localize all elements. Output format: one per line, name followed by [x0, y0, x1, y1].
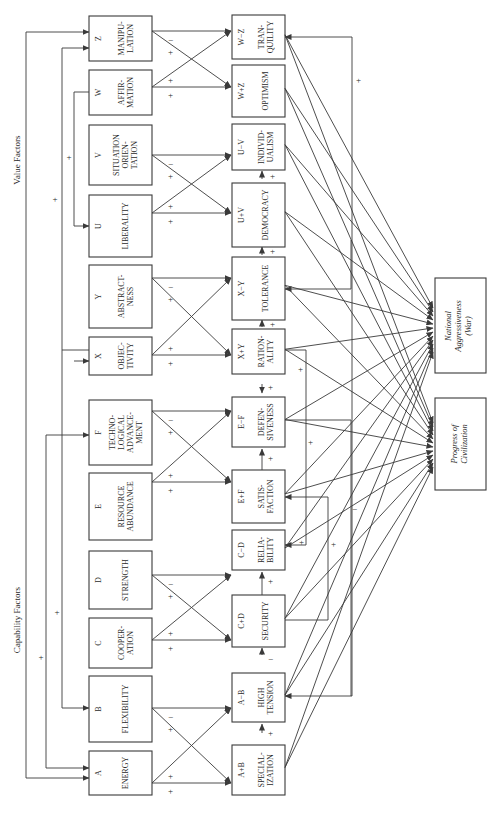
output-label-line: QUILITY: [266, 21, 275, 54]
influence-line: [285, 459, 433, 618]
output-factor-6: E−FDEFEN-SIVENESS: [232, 397, 285, 447]
input-factor-f: FTECHNO-LOGICALADVANCE-MENT: [89, 400, 152, 465]
output-label-line: UALISM: [266, 132, 275, 163]
link-sign: −: [268, 654, 273, 664]
influence-line: [285, 328, 433, 349]
output-formula: C−D: [237, 542, 246, 558]
target-progress-line: Civilization: [459, 424, 469, 464]
output-label-line: INDIVID-: [257, 130, 266, 164]
output-factor-11: A+BSPECIAL-IZATION: [232, 745, 285, 795]
influence-line: [285, 212, 433, 435]
svg-text:+: +: [168, 643, 173, 653]
input-letter: V: [94, 152, 103, 158]
output-factor-7: E+FSATIS-FACTION: [232, 470, 285, 523]
input-factor-e: ERESOURCEABUNDANCE: [89, 473, 152, 540]
feedback-tranquility: [285, 37, 352, 696]
cross-pair: −+++: [152, 575, 231, 653]
output-label-line: BILITY: [266, 537, 275, 563]
feed-line-u: [74, 92, 89, 226]
input-label-line: TIVITY: [126, 342, 135, 369]
output-label-line: DEFEN-: [257, 407, 266, 436]
input-label-line: ADVANCE-: [126, 412, 135, 453]
svg-text:+: +: [168, 171, 173, 181]
output-factor-9: C+DSECURITY: [232, 595, 285, 647]
svg-text:+: +: [168, 771, 173, 781]
input-factor-x: XOBJEC-TIVITY: [89, 337, 152, 375]
input-factor-c: CCOOPER-ATION: [89, 618, 152, 668]
input-label-line: SITUATION: [112, 134, 121, 176]
feedback-sign: +: [331, 539, 336, 549]
feed-line-b: [62, 361, 89, 708]
feed-line-f: [46, 435, 89, 768]
input-label-line: RESOURCE: [117, 486, 126, 528]
influence-lines: [285, 35, 433, 768]
input-label-line: ABUNDANCE: [126, 481, 135, 531]
svg-text:+: +: [168, 294, 173, 304]
input-label-line: MATION: [126, 77, 135, 108]
influence-line: [285, 348, 433, 695]
input-factor-w: WAFFIR-MATION: [89, 70, 152, 115]
influence-line: [285, 463, 433, 695]
influence-line: [285, 455, 433, 548]
feedback-sign: +: [356, 75, 361, 85]
svg-text:+: +: [168, 47, 173, 57]
input-label-line: FLEXIBILITY: [121, 684, 130, 733]
output-label-line: RATION-: [257, 335, 266, 367]
influence-line: [285, 451, 433, 494]
influence-line: [285, 467, 433, 768]
svg-text:+: +: [168, 470, 173, 480]
output-factor-10: A−BHIGHTENSION: [232, 673, 285, 722]
cross-pair: −+++: [152, 155, 231, 226]
svg-text:+: +: [168, 628, 173, 638]
output-factor-4: X−YTOLERANCE: [232, 257, 285, 320]
cross-pair: −+++: [152, 708, 231, 796]
feedback-sign: +: [298, 364, 303, 374]
feedback-sign: +: [308, 437, 313, 447]
output-label-line: SATIS-: [257, 484, 266, 508]
svg-text:−: −: [168, 159, 173, 169]
input-label-line: LATION: [126, 24, 135, 53]
feed-sign: +: [54, 607, 59, 617]
output-formula: E+F: [237, 489, 246, 503]
input-label-line: NESS: [126, 287, 135, 307]
input-factor-a: AENERGY: [89, 751, 152, 795]
influence-line: [285, 145, 433, 316]
influence-line: [285, 285, 433, 439]
feed-sign: +: [38, 652, 43, 662]
input-label-line: LOGICAL: [117, 415, 126, 450]
output-label-line: ALITY: [266, 339, 275, 363]
target-war-line: National: [443, 310, 453, 341]
link-sign: +: [270, 246, 275, 256]
influence-line: [285, 88, 433, 312]
influence-line: [285, 35, 433, 423]
input-label-line: LIBERALITY: [121, 202, 130, 249]
input-factor-z: ZMANIPU-LATION: [89, 16, 152, 61]
feedback-rationality-reliability: [285, 350, 306, 545]
input-label-line: MANIPU-: [117, 21, 126, 56]
influence-line: [285, 145, 433, 431]
output-label-line: FACTION: [266, 479, 275, 513]
input-factor-b: BFLEXIBILITY: [89, 676, 152, 742]
input-letter: C: [94, 640, 103, 645]
svg-text:−: −: [168, 35, 173, 45]
influence-line: [285, 285, 433, 324]
feedback-security-satisfaction: [285, 497, 328, 620]
input-label-line: ORIEN-: [121, 141, 130, 168]
svg-text:+: +: [168, 216, 173, 226]
input-label-line: AFFIR-: [117, 79, 126, 105]
output-label-line: SPECIAL-: [257, 752, 266, 787]
svg-text:−: −: [168, 415, 173, 425]
output-formula: A+B: [237, 762, 246, 778]
svg-text:−: −: [168, 579, 173, 589]
link-sign: +: [268, 728, 273, 738]
output-label-line: DEMOCRACY: [261, 189, 270, 240]
output-formula: W+Z: [237, 82, 246, 99]
output-links: + + + + + + − +: [262, 171, 275, 738]
input-letter: B: [94, 706, 103, 711]
link-sign: +: [268, 453, 273, 463]
target-war-line: (War): [463, 316, 473, 336]
output-formula: U−V: [237, 139, 246, 155]
input-label-line: STRENGTH: [121, 559, 130, 601]
input-letter: F: [94, 430, 103, 435]
svg-text:+: +: [168, 485, 173, 495]
